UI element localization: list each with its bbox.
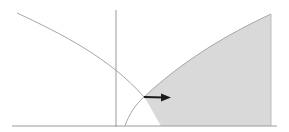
lower-arc — [125, 97, 144, 126]
shaded-region — [144, 14, 271, 126]
diagram — [0, 0, 289, 132]
left-curve — [17, 13, 144, 97]
